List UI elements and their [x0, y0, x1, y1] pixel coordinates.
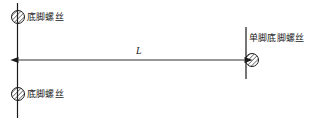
anchor-screw-top-left-label: 底脚螺丝: [27, 12, 64, 23]
anchor-screw-right-icon: [246, 54, 259, 67]
anchor-screw-right-label: 单脚底脚螺丝: [249, 33, 304, 44]
dimension-symbol-label: L: [136, 45, 142, 56]
anchor-screw-top-left-icon: [12, 11, 25, 24]
anchor-screw-bottom-left-label: 底脚螺丝: [27, 89, 64, 100]
anchor-screw-diagram: 底脚螺丝 底脚螺丝 单脚底脚螺丝 L: [0, 0, 327, 121]
anchor-screw-bottom-left-icon: [12, 88, 25, 101]
